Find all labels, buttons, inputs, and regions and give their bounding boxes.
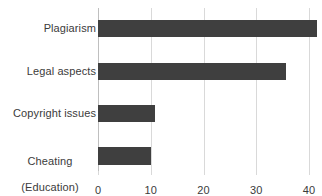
category-label-legal-aspects: Legal aspects	[27, 65, 96, 78]
xtick-label-40: 40	[289, 184, 322, 196]
xtick-label-20: 20	[184, 184, 224, 196]
plot-area: 0 10 20 30 40	[98, 8, 309, 171]
tick-mark-10	[151, 171, 152, 175]
category-label-plagiarism: Plagiarism	[44, 22, 96, 35]
tick-mark-0	[98, 171, 99, 175]
bar-legal-aspects	[98, 63, 286, 80]
bar-plagiarism	[98, 20, 317, 37]
tick-mark-20	[204, 171, 205, 175]
bar-cheating-education	[98, 147, 151, 165]
tick-mark-40	[309, 171, 310, 175]
bar-copyright-issues	[98, 105, 155, 122]
xtick-label-0: 0	[78, 184, 118, 196]
category-label-copyright-issues: Copyright issues	[13, 107, 96, 120]
category-label-cheating-line1: Cheating	[4, 155, 96, 168]
tick-mark-30	[256, 171, 257, 175]
bar-chart: Plagiarism Legal aspects Copyright issue…	[0, 0, 322, 196]
xtick-label-30: 30	[236, 184, 276, 196]
xtick-label-10: 10	[131, 184, 171, 196]
